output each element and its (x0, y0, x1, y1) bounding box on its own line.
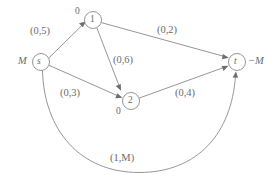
edge-s-to-1 (49, 22, 86, 59)
node-label-s: s (37, 57, 41, 67)
node-t-circle[interactable] (229, 54, 246, 71)
edge-s-to-2-arrowhead (115, 93, 122, 98)
edge-1-to-2-arrowhead (116, 84, 121, 91)
edge-s-to-t-arc-arrowhead (233, 72, 239, 78)
node-s-circle[interactable] (33, 54, 50, 71)
diagram-canvas: s 1 2 t M −M 0 0 (0,5) (0,2) (0,6) (0,3)… (0, 0, 280, 181)
cost-label-node-1: 0 (75, 7, 80, 17)
edge-label-1-to-2: (0,6) (113, 55, 133, 66)
node-label-1: 1 (90, 15, 95, 25)
demand-label-t: −M (248, 56, 264, 67)
edge-1-to-t-arrowhead (222, 54, 229, 59)
edge-label-2-to-t: (0,4) (175, 88, 195, 99)
edge-2-to-t-arrowhead (222, 66, 229, 71)
edge-label-s-to-1: (0,5) (30, 26, 50, 37)
supply-label-s: M (18, 56, 27, 67)
cost-label-node-2: 0 (116, 107, 121, 117)
edge-s-to-t-arc (43, 71, 239, 173)
node-label-t: t (234, 57, 237, 67)
edge-label-s-to-2: (0,3) (60, 88, 80, 99)
edge-s-to-t-arc-line (43, 71, 236, 173)
edge-s-to-1-line (49, 25, 83, 58)
edge-label-1-to-t: (0,2) (157, 25, 177, 36)
edge-label-s-to-t-arc: (1,M) (110, 153, 134, 164)
node-label-2: 2 (128, 96, 133, 106)
